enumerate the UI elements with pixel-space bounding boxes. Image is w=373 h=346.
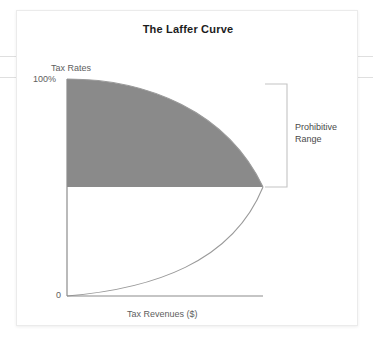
shaded-prohibitive-region: [67, 79, 263, 187]
laffer-curve-plot: [17, 11, 358, 326]
prohibitive-range-bracket: [265, 84, 287, 187]
y-axis-tick-top: 100%: [33, 74, 56, 84]
laffer-curve-lower-branch: [67, 187, 263, 296]
x-axis-title: Tax Revenues ($): [127, 309, 198, 319]
y-axis-title: Tax Rates: [51, 63, 91, 73]
y-axis-tick-bottom: 0: [56, 290, 61, 300]
prohibitive-range-label: Prohibitive Range: [295, 121, 337, 145]
chart-card: The Laffer Curve Tax Rates 100% 0 Tax Re…: [16, 10, 358, 326]
